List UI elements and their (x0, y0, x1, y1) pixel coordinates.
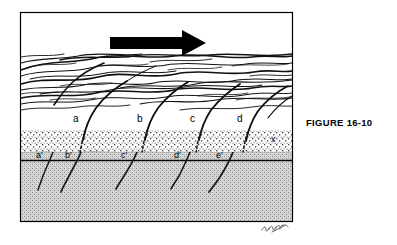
fault-label-c: c (190, 113, 195, 124)
layer-gray-basement (21, 152, 293, 222)
fault-label-a-prime: a' (36, 150, 43, 160)
point-label-x: x (271, 134, 276, 144)
layer-stippled-band (21, 130, 293, 153)
fault-label-d-prime: d' (174, 150, 181, 160)
figure-caption: FIGURE 16-10 (306, 117, 372, 128)
fault-label-d: d (237, 113, 243, 124)
fault-label-e-prime: e' (216, 150, 223, 160)
figure-container: a b c d a' b' c' d' e' x FIGURE 16-10 (0, 0, 397, 245)
fault-label-a: a (73, 113, 79, 124)
fault-label-b-prime: b' (65, 150, 72, 160)
fault-label-c-prime: c' (121, 150, 128, 160)
fault-label-b: b (137, 113, 143, 124)
